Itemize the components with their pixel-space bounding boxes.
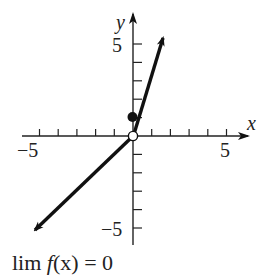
y-tick-label-5: 5: [112, 34, 122, 56]
left-ray: [35, 138, 131, 230]
lim-text: lim: [12, 250, 41, 275]
filled-point: [128, 112, 138, 122]
limit-caption: lim f(x) = 0: [12, 250, 113, 276]
x-tick-label-neg5: −5: [17, 139, 38, 161]
x-tick-label-5: 5: [220, 139, 230, 161]
func-arg: (x): [53, 250, 79, 275]
y-axis-label: y: [114, 11, 125, 34]
right-ray: [134, 38, 163, 134]
limit-value: 0: [102, 250, 113, 275]
y-tick-label-neg5: −5: [101, 218, 122, 240]
open-point: [128, 131, 137, 140]
graph: y x 5 −5 −5 5: [0, 0, 260, 279]
equals: =: [79, 250, 102, 275]
x-axis-label: x: [246, 112, 256, 134]
